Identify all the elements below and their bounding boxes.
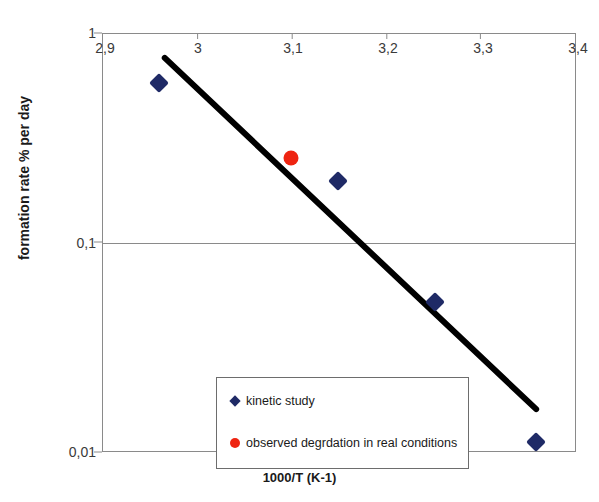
- legend-entry-kinetic-study: kinetic study: [229, 394, 315, 408]
- legend-entry-observed-degradation: observed degrdation in real conditions: [229, 436, 465, 450]
- y-axis-tick-label: 1: [38, 25, 96, 41]
- y-axis-tick-label: 0,01: [38, 444, 96, 460]
- y-axis-title: formation rate % per day: [14, 78, 34, 278]
- legend-label: kinetic study: [246, 394, 315, 408]
- x-axis-ticks: [103, 34, 575, 44]
- legend: kinetic study observed degrdation in rea…: [216, 377, 469, 469]
- x-axis-title: 1000/T (K-1): [0, 470, 599, 485]
- legend-label: observed degrdation in real conditions: [246, 436, 457, 450]
- chart-canvas: formation rate % per day 1 0,1 0,01 kine…: [0, 0, 599, 502]
- circle-marker-icon: [229, 437, 241, 449]
- y-axis-tick-label: 0,1: [38, 235, 96, 251]
- y-axis-ticks: [94, 28, 104, 458]
- data-point-observed-degradation: [284, 151, 299, 166]
- plot-area: kinetic study observed degrdation in rea…: [102, 33, 576, 452]
- diamond-marker-icon: [229, 395, 241, 407]
